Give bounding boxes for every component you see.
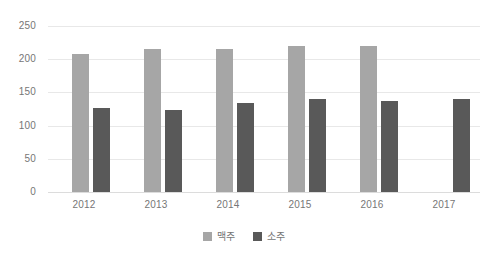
y-tick-label-0: 0 (30, 187, 36, 197)
bar-group-2015 (264, 26, 336, 192)
bar-group-2014 (192, 26, 264, 192)
y-tick-label-150: 150 (19, 87, 36, 97)
legend-label-소주: 소주 (267, 231, 285, 242)
gridline-0 (48, 192, 480, 193)
x-tick-label-2014: 2014 (192, 196, 264, 214)
bar-소주-2017[interactable] (453, 99, 470, 192)
x-tick-label-2013: 2013 (120, 196, 192, 214)
legend-swatch-soju (253, 232, 262, 241)
bar-소주-2016[interactable] (381, 101, 398, 192)
bar-chart: 050100150200250 201220132014201520162017… (0, 0, 487, 261)
legend-label-맥주: 맥주 (217, 231, 235, 242)
y-tick-label-50: 50 (24, 154, 36, 164)
x-tick-label-2015: 2015 (264, 196, 336, 214)
bar-맥주-2012[interactable] (72, 54, 89, 192)
legend-item-소주[interactable]: 소주 (253, 231, 285, 242)
bar-맥주-2014[interactable] (216, 49, 233, 192)
bar-맥주-2016[interactable] (360, 46, 377, 192)
bar-소주-2014[interactable] (237, 103, 254, 192)
bar-소주-2013[interactable] (165, 110, 182, 192)
x-tick-label-2016: 2016 (336, 196, 408, 214)
chart-legend: 맥주소주 (0, 228, 487, 244)
y-tick-label-250: 250 (19, 21, 36, 31)
x-tick-label-2012: 2012 (48, 196, 120, 214)
y-tick-label-100: 100 (19, 121, 36, 131)
bar-소주-2012[interactable] (93, 108, 110, 192)
legend-swatch-maekju (203, 232, 212, 241)
bar-맥주-2013[interactable] (144, 49, 161, 192)
bar-group-2017 (408, 26, 480, 192)
bar-group-2016 (336, 26, 408, 192)
y-tick-label-200: 200 (19, 54, 36, 64)
legend-item-맥주[interactable]: 맥주 (203, 231, 235, 242)
x-tick-label-2017: 2017 (408, 196, 480, 214)
y-axis: 050100150200250 (0, 26, 42, 192)
bar-맥주-2015[interactable] (288, 46, 305, 192)
bar-소주-2015[interactable] (309, 99, 326, 192)
x-axis: 201220132014201520162017 (48, 196, 480, 214)
bar-groups (48, 26, 480, 192)
bar-group-2012 (48, 26, 120, 192)
bar-group-2013 (120, 26, 192, 192)
